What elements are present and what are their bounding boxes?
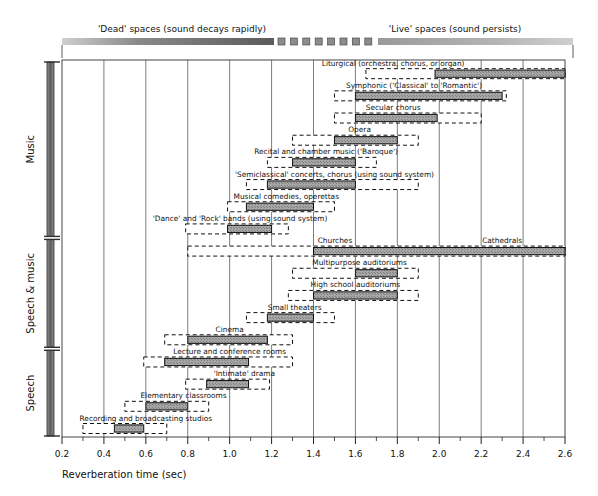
- optimum-range-bar: [435, 70, 565, 77]
- row-label: Small theaters: [268, 303, 322, 312]
- row-label: Cinema: [216, 325, 244, 334]
- reverberation-chart-page: 'Dead' spaces (sound decays rapidly) 'Li…: [0, 0, 598, 496]
- row-label: 'Dance' and 'Rock' bands (using sound sy…: [153, 214, 328, 223]
- optimum-range-bar: [267, 314, 313, 321]
- group-bracket: Speech: [25, 350, 60, 436]
- bar-row: Recording and broadcasting studios: [80, 414, 213, 434]
- row-label: Elementary classrooms: [140, 391, 226, 400]
- gradient-transition-block: [328, 38, 335, 45]
- row-label: Opera: [348, 125, 371, 134]
- row-label-secondary: Cathedrals: [482, 236, 522, 245]
- axis-tick-label: 1.8: [390, 449, 405, 459]
- group-bracket-bar: [47, 239, 54, 347]
- axis-tick-label: 2.4: [516, 449, 531, 459]
- dead-gradient-segment: [62, 38, 274, 45]
- group-brackets: MusicSpeech & musicSpeech: [25, 62, 60, 436]
- gradient-transition-block: [303, 38, 310, 45]
- bar-row: Multipurpose auditoriums: [293, 258, 419, 278]
- bar-row: Cinema: [165, 325, 293, 345]
- bar-row: Elementary classrooms: [125, 391, 227, 411]
- optimum-range-bar: [355, 92, 502, 99]
- row-label: Recording and broadcasting studios: [80, 414, 213, 423]
- group-bracket: Music: [25, 62, 60, 236]
- axis-tick-label: 2.0: [432, 449, 447, 459]
- row-label: Liturgical (orchestra, chorus, or organ): [322, 59, 465, 68]
- optimum-range-bar: [246, 203, 313, 210]
- gradient-transition-block: [340, 38, 347, 45]
- reverberation-chart: 'Dead' spaces (sound decays rapidly) 'Li…: [0, 0, 598, 496]
- row-label: Lecture and conference rooms: [173, 347, 286, 356]
- gradient-transition-block: [278, 38, 285, 45]
- row-label: Secular chorus: [366, 103, 421, 112]
- group-bracket: Speech & music: [25, 239, 60, 347]
- optimum-range-bar: [334, 137, 397, 144]
- row-label: Multipurpose auditoriums: [312, 258, 407, 267]
- row-label: Musical comedies, operettas: [234, 192, 340, 201]
- axis-tick-label: 2.6: [558, 449, 573, 459]
- bar-row: 'Dance' and 'Rock' bands (using sound sy…: [153, 214, 328, 234]
- row-label: Symphonic ('Classical' to 'Romantic'): [346, 81, 482, 90]
- axis-tick-label: 0.8: [181, 449, 196, 459]
- header-labels: 'Dead' spaces (sound decays rapidly) 'Li…: [98, 24, 521, 34]
- gradient-transition-block: [315, 38, 322, 45]
- optimum-range-bar: [165, 358, 249, 365]
- row-label: High school auditoriums: [311, 280, 401, 289]
- optimum-range-bar: [146, 403, 188, 410]
- axis-ticks: 0.20.40.60.81.01.21.41.61.82.02.22.42.6: [55, 437, 573, 459]
- gradient-transition-block: [365, 38, 372, 45]
- optimum-range-bar: [207, 381, 249, 388]
- live-gradient-segment: [378, 38, 573, 45]
- axis-tick-label: 2.2: [474, 449, 488, 459]
- group-label: Speech: [25, 375, 36, 412]
- bar-rows: Liturgical (orchestra, chorus, or organ)…: [80, 59, 565, 434]
- axis-tick-label: 1.6: [348, 449, 363, 459]
- axis-tick-label: 0.2: [55, 449, 69, 459]
- bar-row: ChurchesCathedrals: [188, 236, 565, 256]
- row-label: 'Intimate' drama: [214, 369, 275, 378]
- live-spaces-label: 'Live' spaces (sound persists): [389, 24, 521, 34]
- optimum-range-bar: [267, 181, 355, 188]
- group-label: Speech & music: [25, 253, 36, 334]
- gradient-transition-block: [290, 38, 297, 45]
- group-bracket-bar: [47, 350, 54, 436]
- dead-live-gradient-bar: [62, 38, 573, 58]
- axis-tick-label: 0.4: [97, 449, 112, 459]
- bar-row: Secular chorus: [334, 103, 481, 123]
- axis-tick-label: 1.4: [306, 449, 321, 459]
- bar-row: Liturgical (orchestra, chorus, or organ): [322, 59, 565, 79]
- bar-row: Opera: [293, 125, 419, 145]
- row-label: Recital and chamber music ('Baroque'): [254, 147, 398, 156]
- optimum-range-bar: [355, 114, 437, 121]
- row-label: 'Semiclassical' concerts, chorus (using …: [235, 170, 434, 179]
- bar-row: 'Semiclassical' concerts, chorus (using …: [235, 170, 434, 190]
- axis-tick-label: 0.6: [139, 449, 154, 459]
- optimum-range-bar: [355, 270, 397, 277]
- group-label: Music: [25, 135, 36, 163]
- bar-row: Small theaters: [246, 303, 334, 323]
- optimum-range-bar: [293, 159, 356, 166]
- optimum-range-bar: [314, 292, 398, 299]
- bar-row: Symphonic ('Classical' to 'Romantic'): [334, 81, 506, 101]
- optimum-range-bar: [114, 425, 143, 432]
- gradient-transition-block: [352, 38, 359, 45]
- group-bracket-bar: [47, 62, 54, 236]
- axis-tick-label: 1.2: [264, 449, 278, 459]
- bar-row: 'Intimate' drama: [186, 369, 275, 389]
- x-axis-title: Reverberation time (sec): [62, 469, 186, 480]
- row-label: Churches: [318, 236, 353, 245]
- optimum-range-bar: [314, 247, 566, 254]
- optimum-range-bar: [188, 336, 268, 343]
- optimum-range-bar: [228, 225, 272, 232]
- bar-row: Musical comedies, operettas: [228, 192, 340, 212]
- axis-tick-label: 1.0: [223, 449, 238, 459]
- bar-row: Recital and chamber music ('Baroque'): [254, 147, 398, 167]
- bar-row: Lecture and conference rooms: [144, 347, 293, 367]
- dead-spaces-label: 'Dead' spaces (sound decays rapidly): [98, 24, 266, 34]
- bar-row: High school auditoriums: [288, 280, 418, 300]
